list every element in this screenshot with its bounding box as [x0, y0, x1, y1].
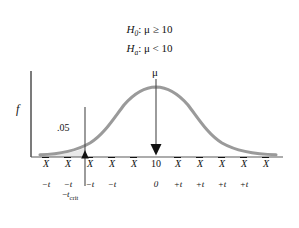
xbar-symbol: X	[197, 158, 203, 169]
axis-tick-xbar: X	[34, 158, 58, 169]
axis-tick-t-value: −t	[34, 179, 58, 189]
xbar-symbol: X	[65, 158, 71, 169]
xbar-symbol: X	[109, 158, 115, 169]
xbar-symbol: X	[43, 158, 49, 169]
axis-tick-xbar: X	[78, 158, 102, 169]
alpha-area-label: .05	[57, 122, 70, 133]
xbar-symbol: X	[131, 158, 137, 169]
axis-tick-t-value: +t	[232, 179, 256, 189]
axis-tick-xbar: X	[210, 158, 234, 169]
y-axis-label: f	[16, 102, 19, 117]
axis-tick-xbar: X	[254, 158, 278, 169]
axis-tick-xbar: X	[56, 158, 80, 169]
statistics-figure: H0: μ ≥ 10 Ha: μ < 10 f .05 μ −tcrit XXX…	[0, 0, 299, 228]
axis-tick-t-value: −t	[100, 179, 124, 189]
xbar-symbol: X	[219, 158, 225, 169]
xbar-symbol: X	[175, 158, 181, 169]
axis-tick-t-value: −t	[56, 179, 80, 189]
axis-tick-xbar: X	[188, 158, 212, 169]
axis-tick-t-value: +t	[210, 179, 234, 189]
xbar-symbol: X	[263, 158, 269, 169]
mu-arrowhead-icon	[151, 144, 162, 156]
axis-tick-xbar: X	[166, 158, 190, 169]
axis-tick-xbar: X	[100, 158, 124, 169]
axis-tick-center-value: 10	[144, 158, 168, 169]
xbar-symbol: X	[241, 158, 247, 169]
axis-tick-t-value: +t	[188, 179, 212, 189]
mu-label: μ	[152, 66, 158, 78]
distribution-drawing	[0, 0, 299, 228]
xbar-symbol: X	[87, 158, 93, 169]
axis-tick-xbar: X	[232, 158, 256, 169]
t-tick-row: −t−t−t−t0+t+t+t+t	[0, 179, 299, 193]
axis-tick-t-zero: 0	[144, 179, 168, 189]
axis-tick-xbar: X	[122, 158, 146, 169]
axis-tick-t-value: +t	[166, 179, 190, 189]
axis-tick-t-value: −t	[78, 179, 102, 189]
xbar-tick-row: XXXXX10XXXXX	[0, 158, 299, 172]
